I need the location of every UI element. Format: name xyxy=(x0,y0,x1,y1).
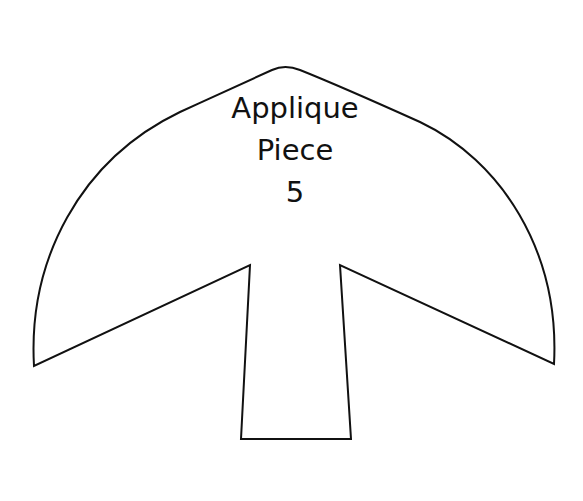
label-line-2: Piece xyxy=(195,133,395,167)
applique-piece-outline xyxy=(0,0,583,501)
label-line-3: 5 xyxy=(195,175,395,209)
label-line-1: Applique xyxy=(195,91,395,125)
